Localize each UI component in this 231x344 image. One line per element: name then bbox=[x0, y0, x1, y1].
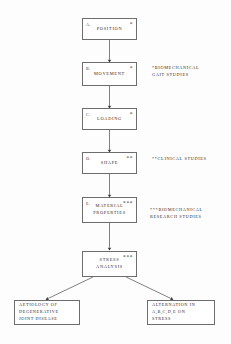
node-material-properties-index: E. bbox=[86, 201, 90, 206]
node-stress-analysis[interactable]: *** STRESS ANALYSIS bbox=[82, 251, 137, 277]
node-stress-analysis-label: STRESS ANALYSIS bbox=[94, 257, 125, 270]
annotation-clinical-studies: **CLINICAL STUDIES bbox=[152, 156, 207, 163]
node-position-label: POSITION bbox=[95, 26, 125, 33]
node-loading-label: LOADING bbox=[95, 116, 124, 123]
outcome-aetiology-label: AETIOLOGY OF DEGENERATIVE JOINT DISEASE bbox=[19, 302, 59, 323]
connector-stress-aetiology bbox=[47, 277, 93, 299]
node-shape-label: SHAPE bbox=[99, 160, 120, 167]
node-position-marker: * bbox=[130, 22, 133, 27]
node-movement[interactable]: B. * MOVEMENT bbox=[82, 62, 137, 86]
outcome-alternation-label: ALTERNATION IN A,B,C,D,E ON STRESS bbox=[152, 302, 195, 323]
node-movement-index: B. bbox=[86, 66, 91, 71]
node-position-index: A. bbox=[86, 22, 91, 27]
node-loading-marker: * bbox=[130, 112, 133, 117]
node-movement-label: MOVEMENT bbox=[92, 71, 127, 78]
node-shape-index: D. bbox=[86, 156, 91, 161]
node-movement-marker: * bbox=[130, 66, 133, 71]
node-material-properties-marker: *** bbox=[123, 201, 133, 206]
node-stress-analysis-marker: *** bbox=[123, 255, 133, 260]
node-material-properties[interactable]: E. *** MATERIAL PROPERTIES bbox=[82, 197, 137, 223]
node-shape-marker: ** bbox=[126, 156, 133, 161]
outcome-alternation[interactable]: ALTERNATION IN A,B,C,D,E ON STRESS bbox=[147, 300, 215, 325]
node-shape[interactable]: D. ** SHAPE bbox=[82, 152, 137, 174]
outcome-aetiology[interactable]: AETIOLOGY OF DEGENERATIVE JOINT DISEASE bbox=[14, 300, 80, 325]
node-position[interactable]: A. * POSITION bbox=[82, 18, 137, 40]
connector-stress-alternation bbox=[126, 277, 172, 299]
node-loading-index: C. bbox=[86, 112, 91, 117]
annotation-research-studies: ***BIOMECHANICAL RESEARCH STUDIES bbox=[150, 207, 203, 220]
flowchart-diagram: A. * POSITION B. * MOVEMENT C. * LOADING… bbox=[0, 0, 231, 344]
node-loading[interactable]: C. * LOADING bbox=[82, 108, 137, 130]
annotation-gait-studies: *BIOMECHANICAL GAIT STUDIES bbox=[152, 65, 199, 78]
